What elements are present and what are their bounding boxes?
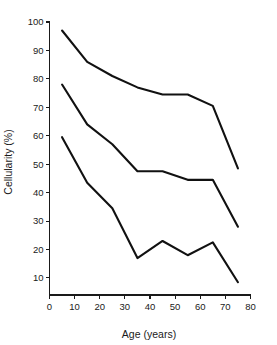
x-tick-label: 50	[170, 301, 181, 312]
x-tick-label: 0	[47, 301, 52, 312]
x-tick-group: 01020304050607080	[47, 295, 256, 312]
data-series-group	[62, 31, 238, 283]
y-tick-label: 80	[33, 73, 44, 84]
chart-canvas: 102030405060708090100 01020304050607080 …	[0, 0, 277, 345]
x-axis-title: Age (years)	[122, 328, 176, 340]
data-line-lower	[62, 137, 238, 282]
y-axis: 102030405060708090100	[28, 16, 50, 295]
y-tick-label: 40	[33, 187, 44, 198]
y-tick-label: 70	[33, 102, 44, 113]
x-tick-label: 70	[220, 301, 231, 312]
y-tick-label: 20	[33, 244, 44, 255]
x-tick-label: 30	[120, 301, 131, 312]
x-axis: 01020304050607080	[47, 295, 256, 312]
x-tick-label: 10	[69, 301, 80, 312]
y-tick-label: 100	[28, 16, 44, 27]
y-tick-label: 30	[33, 215, 44, 226]
y-tick-label: 90	[33, 45, 44, 56]
y-tick-label: 60	[33, 130, 44, 141]
data-line-upper	[62, 31, 238, 169]
x-tick-label: 80	[245, 301, 256, 312]
y-tick-group: 102030405060708090100	[28, 16, 50, 283]
y-tick-label: 50	[33, 159, 44, 170]
cellularity-vs-age-chart: 102030405060708090100 01020304050607080 …	[0, 0, 277, 345]
y-tick-label: 10	[33, 272, 44, 283]
y-axis-title: Cellularity (%)	[2, 129, 14, 194]
x-tick-label: 40	[145, 301, 156, 312]
x-tick-label: 60	[195, 301, 206, 312]
x-tick-label: 20	[94, 301, 105, 312]
